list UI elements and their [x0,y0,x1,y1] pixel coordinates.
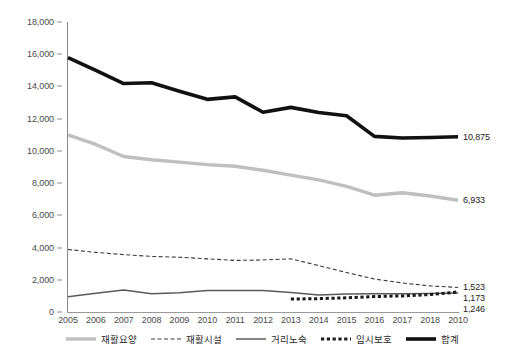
x-axis-tick-label: 2018 [420,315,440,325]
series-value-label-임시보호: 1,246 [463,304,485,314]
y-axis-tick-label: 16,000 [27,49,54,59]
y-axis-tick-label: 14,000 [27,81,54,91]
y-axis-tick-label: 2,000 [32,275,54,285]
x-axis-tick-label: 2011 [226,315,245,325]
legend-label: 재활요양 [101,332,137,346]
y-axis-tick-mark [57,54,62,55]
series-line-재활요양 [68,135,458,201]
series-lines [68,22,458,312]
y-axis-tick-mark [57,86,62,87]
legend-swatch-icon [236,334,266,344]
plot-area [68,22,458,312]
y-axis-tick-label: 0 [49,307,54,317]
x-axis-tick-label: 2015 [337,315,357,325]
x-axis-line [67,312,459,313]
y-axis-tick-label: 6,000 [32,210,54,220]
y-axis-tick-mark [57,279,62,280]
x-axis-tick-label: 2005 [58,315,78,325]
legend-swatch-icon [406,334,436,344]
legend-item-임시보호[interactable]: 임시보호 [321,332,392,346]
legend-item-재활시설[interactable]: 재활시설 [151,332,222,346]
x-axis-tick-label: 2012 [253,315,273,325]
x-axis-tick-label: 2010 [448,315,468,325]
y-axis-tick-mark [57,312,62,313]
legend-swatch-icon [151,334,181,344]
series-value-label-재활요양: 6,933 [463,195,485,205]
x-axis-tick-label: 2010 [197,315,217,325]
series-line-합계 [68,58,458,138]
legend-label: 합계 [441,332,459,346]
y-axis-tick-label: 12,000 [27,114,54,124]
legend-label: 거리노숙 [271,332,307,346]
legend-item-거리노숙[interactable]: 거리노숙 [236,332,307,346]
y-axis-tick-mark [57,247,62,248]
x-axis-tick-label: 2006 [86,315,106,325]
series-line-임시보호 [291,292,458,299]
y-axis-tick-label: 8,000 [32,178,54,188]
y-axis-tick-label: 10,000 [27,146,54,156]
y-axis-tick-label: 18,000 [27,17,54,27]
legend-label: 재활시설 [186,332,222,346]
series-value-label-재활시설: 1,523 [463,282,485,292]
y-axis-tick-mark [57,150,62,151]
y-axis-tick-mark [57,118,62,119]
y-axis-tick-mark [57,22,62,23]
series-line-재활시설 [68,249,458,287]
x-axis-tick-label: 2014 [309,315,329,325]
legend-item-합계[interactable]: 합계 [406,332,459,346]
x-axis-tick-label: 2009 [170,315,190,325]
legend-item-재활요양[interactable]: 재활요양 [66,332,137,346]
x-axis-tick-label: 2017 [392,315,412,325]
x-axis-tick-label: 2016 [365,315,385,325]
x-axis-tick-label: 2008 [142,315,162,325]
chart-legend: 재활요양재활시설거리노숙임시보호합계 [0,332,524,346]
y-axis-tick-mark [57,183,62,184]
y-axis-tick-mark [57,215,62,216]
line-chart-figure: 02,0004,0006,0008,00010,00012,00014,0001… [0,0,524,364]
legend-swatch-icon [66,334,96,344]
series-line-거리노숙 [68,290,458,297]
x-axis-tick-label: 2007 [114,315,134,325]
legend-swatch-icon [321,334,351,344]
y-axis: 02,0004,0006,0008,00010,00012,00014,0001… [0,22,62,312]
legend-label: 임시보호 [356,332,392,346]
series-value-label-합계: 10,875 [463,132,490,142]
x-axis-tick-label: 2013 [281,315,301,325]
series-value-label-거리노숙: 1,173 [463,293,485,303]
x-axis: 2005200620072008200920102011201220132014… [68,315,458,331]
y-axis-tick-label: 4,000 [32,243,54,253]
